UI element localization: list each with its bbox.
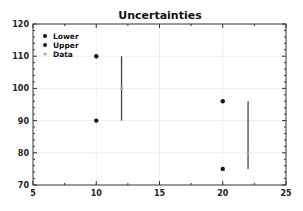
uncertainties-chart: Uncertainties 510152025 708090100110120 … xyxy=(0,0,303,211)
y-axis-tick-labels: 708090100110120 xyxy=(12,20,29,190)
data-series xyxy=(94,54,250,171)
y-tick-label: 90 xyxy=(18,117,30,126)
y-tick-label: 120 xyxy=(12,20,29,29)
legend: LowerUpperData xyxy=(43,32,79,59)
data-point-marker xyxy=(246,151,249,154)
lower-point-marker xyxy=(94,118,98,122)
legend-marker xyxy=(43,52,46,55)
x-tick-label: 15 xyxy=(154,189,166,198)
chart-title: Uncertainties xyxy=(118,9,202,22)
x-tick-label: 10 xyxy=(91,189,103,198)
lower-point-marker xyxy=(221,167,225,171)
legend-label: Data xyxy=(53,50,73,59)
legend-label: Lower xyxy=(53,32,79,41)
legend-marker xyxy=(43,43,47,47)
data-point-marker xyxy=(120,87,123,90)
y-tick-label: 70 xyxy=(18,181,30,190)
y-tick-label: 80 xyxy=(18,149,30,158)
x-axis-tick-labels: 510152025 xyxy=(30,189,292,198)
x-tick-label: 5 xyxy=(30,189,36,198)
x-tick-label: 20 xyxy=(217,189,229,198)
y-tick-label: 100 xyxy=(12,84,29,93)
upper-point-marker xyxy=(94,54,98,58)
legend-label: Upper xyxy=(53,41,79,50)
upper-point-marker xyxy=(221,99,225,103)
y-tick-label: 110 xyxy=(12,52,29,61)
legend-marker xyxy=(43,34,47,38)
x-tick-label: 25 xyxy=(280,189,292,198)
